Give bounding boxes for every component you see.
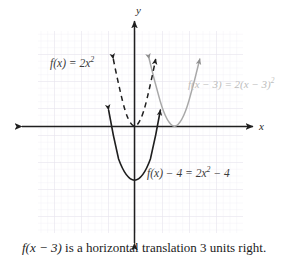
label-original-exponent: 2 bbox=[90, 55, 94, 64]
label-vertical-shift-function: f(x) − 4 = 2x2 − 4 bbox=[147, 168, 230, 180]
label-horizontal-shift-text: f(x − 3) = 2(x − 3) bbox=[188, 78, 271, 90]
x-axis-label: x bbox=[259, 121, 264, 132]
label-original-text: f(x) = 2x bbox=[50, 57, 90, 69]
caption-text: is a horizontal translation 3 units righ… bbox=[62, 240, 266, 255]
figure-caption: f(x − 3) is a horizontal translation 3 u… bbox=[22, 241, 307, 256]
label-horizontal-shift-exponent: 2 bbox=[271, 76, 275, 85]
y-axis-label: y bbox=[136, 5, 141, 16]
caption-function: f(x − 3) bbox=[22, 240, 62, 255]
label-vertical-shift-tail: − 4 bbox=[211, 167, 230, 179]
function-graph-figure: y x f(x) = 2x2 f(x − 3) = 2(x − 3)2 f(x)… bbox=[0, 0, 307, 266]
graph-canvas bbox=[0, 0, 307, 266]
label-original-function: f(x) = 2x2 bbox=[50, 58, 94, 70]
label-horizontal-shift-function: f(x − 3) = 2(x − 3)2 bbox=[188, 79, 274, 90]
label-vertical-shift-text: f(x) − 4 = 2x bbox=[147, 167, 207, 179]
